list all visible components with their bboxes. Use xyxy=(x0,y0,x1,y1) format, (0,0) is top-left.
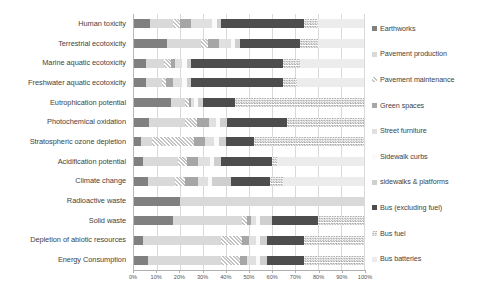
legend-swatch-icon xyxy=(372,154,377,159)
bar-segment xyxy=(187,157,199,166)
bar-segment xyxy=(272,216,318,225)
category-label-text: Radioactive waste xyxy=(67,197,126,205)
bar-segment xyxy=(152,137,193,146)
bar-segment xyxy=(267,236,304,245)
bar-segment xyxy=(173,19,180,28)
legend-item[interactable]: Street furniture xyxy=(372,118,488,144)
bar-row xyxy=(134,14,364,34)
bar-segment xyxy=(134,19,150,28)
legend-item[interactable]: Bus batteries xyxy=(372,246,488,272)
legend-item[interactable]: Green spaces xyxy=(372,93,488,119)
bar-segment xyxy=(173,216,242,225)
x-tick-label: 100% xyxy=(358,274,372,280)
bar-segment xyxy=(304,256,364,265)
bar-segment xyxy=(219,137,226,146)
bar-segment xyxy=(148,177,176,186)
bar-segment xyxy=(300,39,318,48)
bar-segment xyxy=(143,236,221,245)
bar-segment xyxy=(134,256,148,265)
legend-item-label: Sidewalk curbs xyxy=(380,153,428,161)
bar-track xyxy=(134,236,364,245)
bar-segment xyxy=(198,177,207,186)
bar-segment xyxy=(134,197,180,206)
bar-segment xyxy=(134,118,149,127)
bar-segment xyxy=(240,256,247,265)
bar-segment xyxy=(221,19,304,28)
bar-segment xyxy=(171,98,185,107)
category-label-text: Freshwater aquatic ecotoxicity xyxy=(28,79,126,87)
bar-segment xyxy=(247,256,256,265)
category-label-text: Solid waste xyxy=(89,217,126,225)
bar-track xyxy=(134,137,364,146)
legend-item[interactable]: sidewalks & platforms xyxy=(372,170,488,196)
bar-segment xyxy=(260,256,267,265)
x-tick-label: 90% xyxy=(336,274,347,280)
bar-segment xyxy=(203,98,235,107)
bar-segment xyxy=(287,118,364,127)
x-tick-label: 60% xyxy=(267,274,278,280)
category-label-row: Photochemical oxidation xyxy=(0,112,130,132)
bar-track xyxy=(134,118,364,127)
category-label-row: Marine aquatic ecotoxicity xyxy=(0,53,130,73)
bar-segment xyxy=(212,177,230,186)
x-tick-mark xyxy=(203,270,204,273)
category-label-row: Solid waste xyxy=(0,211,130,231)
legend-item[interactable]: Sidewalk curbs xyxy=(372,144,488,170)
category-label-row: Human toxicity xyxy=(0,14,130,34)
bar-segment xyxy=(194,137,206,146)
bar-segment xyxy=(221,157,272,166)
x-tick-label: 80% xyxy=(313,274,324,280)
bar-segment xyxy=(134,177,148,186)
bar-segment xyxy=(214,157,221,166)
bar-segment xyxy=(300,59,364,68)
category-label-row: Acidification potential xyxy=(0,152,130,172)
bar-segment xyxy=(134,39,167,48)
x-tick-mark xyxy=(133,270,134,273)
category-label-row: Climate change xyxy=(0,172,130,192)
category-label-text: Marine aquatic ecotoxicity xyxy=(42,59,126,67)
legend-item[interactable]: Bus fuel xyxy=(372,221,488,247)
x-tick-mark xyxy=(179,270,180,273)
category-label-text: Photochemical oxidation xyxy=(47,118,126,126)
bar-row xyxy=(134,231,364,251)
bar-segment xyxy=(318,216,364,225)
legend-item[interactable]: Pavement maintenance xyxy=(372,67,488,93)
bar-segment xyxy=(201,39,208,48)
bar-segment xyxy=(209,118,216,127)
legend-item[interactable]: Bus (excluding fuel) xyxy=(372,195,488,221)
bar-row xyxy=(134,211,364,231)
x-tick-mark xyxy=(319,270,320,273)
legend-item-label: Green spaces xyxy=(380,102,424,110)
category-label-row: Terrestrial ecotoxicity xyxy=(0,34,130,54)
bar-row xyxy=(134,112,364,132)
legend-item[interactable]: Earthworks xyxy=(372,16,488,42)
bar-segment xyxy=(164,59,171,68)
bar-segment xyxy=(143,157,178,166)
chart-legend: EarthworksPavement productionPavement ma… xyxy=(372,16,488,272)
category-label-text: Stratospheric ozone depletion xyxy=(30,138,126,146)
bar-segment xyxy=(198,157,210,166)
bar-segment xyxy=(191,19,212,28)
bar-segment xyxy=(167,39,200,48)
bar-segment xyxy=(178,157,187,166)
bar-segment xyxy=(235,98,364,107)
bar-segment xyxy=(134,137,141,146)
legend-swatch-icon xyxy=(372,257,377,262)
bar-rows-container xyxy=(134,14,364,270)
bar-segment xyxy=(231,177,270,186)
category-label-row: Stratospheric ozone depletion xyxy=(0,132,130,152)
bar-segment xyxy=(146,59,164,68)
bar-track xyxy=(134,256,364,265)
bar-segment xyxy=(318,19,364,28)
category-label-row: Radioactive waste xyxy=(0,191,130,211)
bar-segment xyxy=(221,236,242,245)
bar-segment xyxy=(148,256,222,265)
bar-segment xyxy=(267,256,304,265)
bar-segment xyxy=(304,19,318,28)
bar-track xyxy=(134,39,364,48)
bar-segment xyxy=(134,157,143,166)
stacked-bar-chart: Human toxicityTerrestrial ecotoxicityMar… xyxy=(0,0,488,292)
bar-track xyxy=(134,177,364,186)
legend-item-label: Bus (excluding fuel) xyxy=(380,204,442,212)
legend-item[interactable]: Pavement production xyxy=(372,42,488,68)
